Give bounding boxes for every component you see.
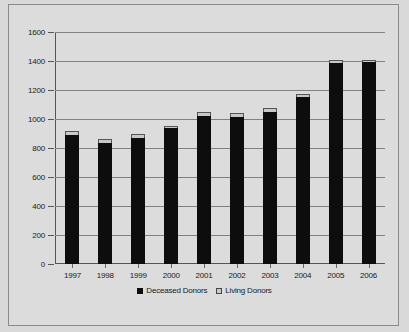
legend-label: Living Donors: [225, 286, 271, 295]
bar-segment-deceased-donors[interactable]: [131, 138, 145, 264]
legend-swatch-icon: [216, 288, 222, 294]
x-axis-label-2000: 2000: [163, 271, 180, 280]
x-tick-1998: [105, 264, 106, 268]
bar-group-1998[interactable]: 1998: [89, 32, 122, 264]
x-tick-2002: [237, 264, 238, 268]
stacked-bar[interactable]: [329, 60, 343, 264]
bar-segment-deceased-donors[interactable]: [362, 62, 376, 264]
bar-group-2002[interactable]: 2002: [221, 32, 254, 264]
stacked-bar[interactable]: [131, 134, 145, 264]
chart-legend: Deceased DonorsLiving Donors: [9, 286, 400, 295]
stacked-bar[interactable]: [230, 113, 244, 264]
y-axis-label-400: 400: [32, 202, 45, 211]
stacked-bar[interactable]: [197, 112, 211, 264]
bar-group-2003[interactable]: 2003: [253, 32, 286, 264]
stacked-bar[interactable]: [65, 131, 79, 264]
donor-bar-chart: 02004006008001000120014001600 1997199819…: [9, 5, 400, 327]
bar-group-1997[interactable]: 1997: [56, 32, 89, 264]
y-axis-label-1400: 1400: [28, 57, 45, 66]
legend-swatch-icon: [137, 288, 143, 294]
bar-segment-deceased-donors[interactable]: [197, 116, 211, 264]
legend-item-living-donors[interactable]: Living Donors: [216, 286, 271, 295]
x-axis-label-2006: 2006: [360, 271, 377, 280]
bar-segment-deceased-donors[interactable]: [65, 135, 79, 264]
y-axis-label-1200: 1200: [28, 86, 45, 95]
y-axis-label-0: 0: [41, 260, 45, 269]
stacked-bar[interactable]: [296, 94, 310, 264]
bar-group-2001[interactable]: 2001: [188, 32, 221, 264]
stacked-bar[interactable]: [98, 139, 112, 264]
legend-item-deceased-donors[interactable]: Deceased Donors: [137, 286, 207, 295]
y-axis-label-600: 600: [32, 173, 45, 182]
bar-segment-deceased-donors[interactable]: [263, 112, 277, 264]
stacked-bar[interactable]: [362, 60, 376, 264]
x-tick-1999: [138, 264, 139, 268]
x-axis-label-1998: 1998: [97, 271, 114, 280]
x-axis-label-2004: 2004: [294, 271, 311, 280]
y-tick-400: [48, 206, 54, 207]
bar-group-2000[interactable]: 2000: [155, 32, 188, 264]
plot-area: 02004006008001000120014001600 1997199819…: [55, 32, 385, 264]
y-axis-label-800: 800: [32, 144, 45, 153]
bar-group-2006[interactable]: 2006: [352, 32, 385, 264]
bar-group-1999[interactable]: 1999: [122, 32, 155, 264]
legend-label: Deceased Donors: [146, 286, 207, 295]
x-tick-2004: [303, 264, 304, 268]
y-axis-label-200: 200: [32, 231, 45, 240]
y-tick-0: [48, 264, 54, 265]
x-axis-label-1997: 1997: [64, 271, 81, 280]
x-axis-label-2005: 2005: [327, 271, 344, 280]
y-tick-1600: [48, 32, 54, 33]
bar-segment-deceased-donors[interactable]: [164, 128, 178, 264]
stacked-bar[interactable]: [164, 126, 178, 264]
y-tick-200: [48, 235, 54, 236]
x-tick-2000: [171, 264, 172, 268]
y-tick-800: [48, 148, 54, 149]
y-axis-label-1600: 1600: [28, 28, 45, 37]
bar-series-group: 1997199819992000200120022003200420052006: [56, 32, 385, 264]
x-tick-1997: [72, 264, 73, 268]
x-tick-2001: [204, 264, 205, 268]
stacked-bar[interactable]: [263, 108, 277, 264]
x-axis-label-2002: 2002: [228, 271, 245, 280]
bar-group-2004[interactable]: 2004: [286, 32, 319, 264]
chart-frame: 02004006008001000120014001600 1997199819…: [8, 4, 399, 326]
y-axis-label-1000: 1000: [28, 115, 45, 124]
bar-segment-deceased-donors[interactable]: [98, 143, 112, 264]
bar-segment-deceased-donors[interactable]: [296, 97, 310, 264]
x-axis-label-2003: 2003: [261, 271, 278, 280]
bar-segment-deceased-donors[interactable]: [329, 63, 343, 264]
y-tick-1400: [48, 61, 54, 62]
bar-group-2005[interactable]: 2005: [319, 32, 352, 264]
x-tick-2005: [336, 264, 337, 268]
x-tick-2006: [369, 264, 370, 268]
y-tick-600: [48, 177, 54, 178]
y-tick-1200: [48, 90, 54, 91]
y-tick-1000: [48, 119, 54, 120]
x-axis-label-2001: 2001: [196, 271, 213, 280]
bar-segment-deceased-donors[interactable]: [230, 117, 244, 264]
x-tick-2003: [270, 264, 271, 268]
x-axis-label-1999: 1999: [130, 271, 147, 280]
